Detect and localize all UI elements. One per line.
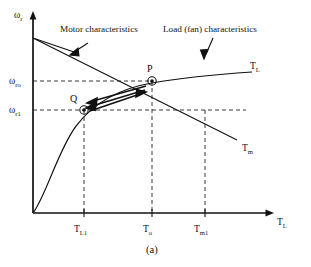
torque-speed-characteristic-figure: TL Tm Motor characteristics Load (fan) c…	[0, 0, 311, 267]
point-p-center-dot	[150, 79, 154, 83]
point-q-center-dot	[82, 108, 86, 112]
figure-caption: (a)	[146, 244, 158, 256]
figure-background	[0, 0, 311, 267]
load-characteristics-annotation: Load (fan) characteristics	[163, 24, 257, 34]
point-q-label: Q	[70, 93, 78, 104]
point-p-label: P	[147, 63, 153, 74]
motor-characteristics-annotation: Motor characteristics	[60, 24, 138, 34]
